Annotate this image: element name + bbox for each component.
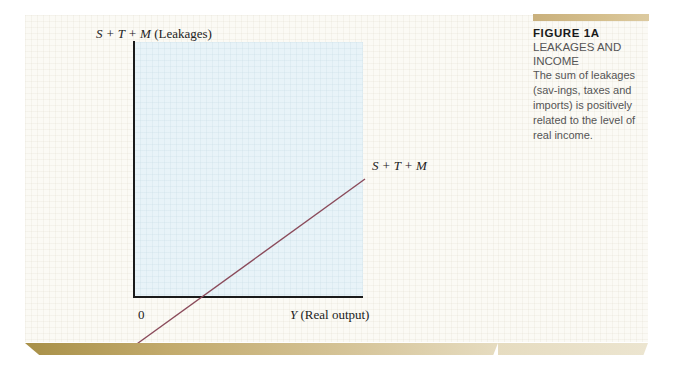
y-axis-label: S + T + M (Leakages) — [96, 26, 212, 42]
figure-title: LEAKAGES AND INCOME — [533, 40, 653, 68]
x-axis-label: Y (Real output) — [290, 307, 369, 323]
figure-number: FIGURE 1A — [533, 27, 653, 39]
line-label: S + T + M — [372, 158, 427, 174]
bottom-accent-bar-right — [498, 343, 648, 355]
figure-caption: FIGURE 1A LEAKAGES AND INCOME The sum of… — [533, 27, 653, 143]
origin-label: 0 — [138, 307, 145, 323]
figure-caption-text: The sum of leakages (sav-ings, taxes and… — [533, 68, 653, 143]
bottom-accent-bar — [25, 343, 498, 355]
caption-accent-bar — [533, 14, 649, 21]
